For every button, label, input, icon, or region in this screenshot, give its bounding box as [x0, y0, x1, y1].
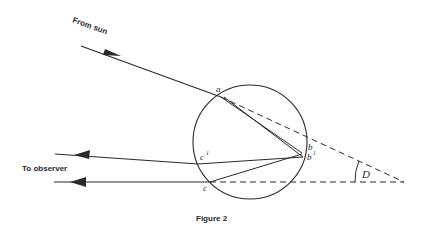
rainbow-refraction-diagram: From sun To observer a b b 1 c 1 c D Fig…	[0, 0, 428, 228]
figure-caption: Figure 2	[196, 214, 228, 223]
point-b1-label: b	[307, 152, 312, 162]
exit-arrow-upper-icon	[74, 150, 90, 159]
chord-b-c	[210, 154, 302, 182]
point-a-label: a	[216, 84, 221, 94]
point-b1-sup: 1	[313, 150, 316, 156]
chord-a-b1	[224, 97, 303, 157]
dashed-incident-extension	[221, 97, 404, 182]
exit-arrow-lower-icon	[70, 177, 86, 187]
point-c-label: c	[203, 183, 207, 193]
to-observer-label: To observer	[22, 164, 67, 173]
point-c1-label: c	[200, 152, 204, 162]
from-sun-label: From sun	[71, 15, 108, 36]
incoming-sun-ray	[81, 46, 221, 97]
point-c1-sup: 1	[206, 150, 209, 156]
angle-d-label: D	[361, 168, 370, 180]
sun-ray-arrow-icon	[103, 49, 121, 56]
angle-arc-d	[355, 161, 359, 182]
